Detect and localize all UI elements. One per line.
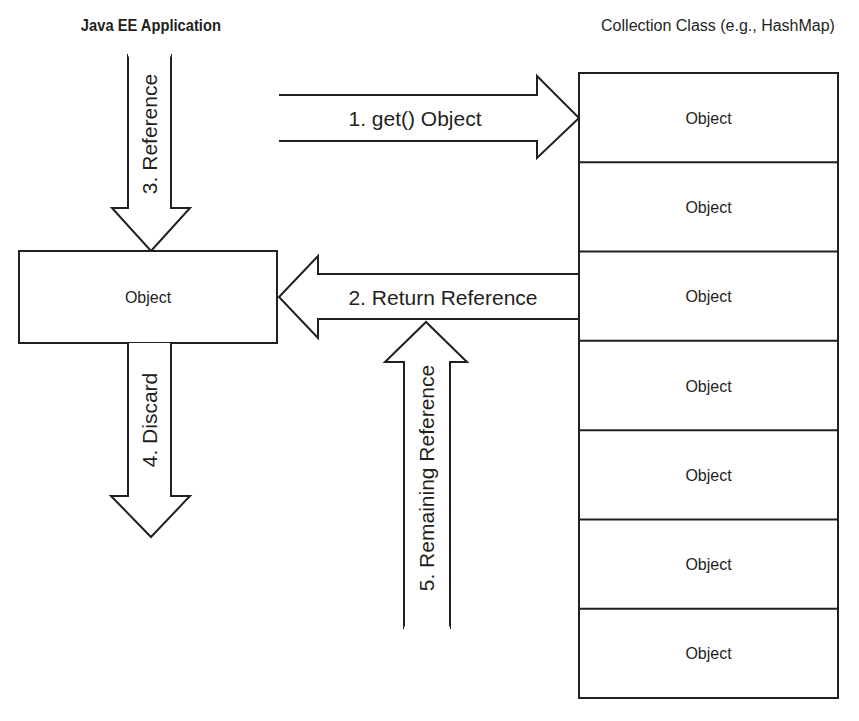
collection-cell-label: Object	[685, 288, 732, 305]
collection-cell: Object	[685, 110, 732, 127]
collection-class-title: Collection Class (e.g., HashMap)	[601, 17, 835, 34]
collection-cell-label: Object	[685, 467, 732, 484]
return-reference-arrow-label: 2. Return Reference	[348, 286, 537, 309]
reference-arrow: 3. Reference	[112, 55, 190, 251]
remaining-reference-arrow-label: 5. Remaining Reference	[415, 365, 438, 591]
diagram-canvas: Java EE Application Collection Class (e.…	[0, 0, 859, 721]
collection-class-box: ObjectObjectObjectObjectObjectObjectObje…	[579, 73, 838, 698]
remaining-reference-arrow: 5. Remaining Reference	[385, 322, 467, 628]
java-ee-application-title: Java EE Application	[81, 16, 221, 34]
collection-cell-label: Object	[685, 110, 732, 127]
collection-cell-label: Object	[685, 645, 732, 662]
collection-cell-label: Object	[685, 199, 732, 216]
discard-arrow: 4. Discard	[111, 344, 190, 537]
discard-arrow-label: 4. Discard	[138, 373, 161, 468]
reference-arrow-label: 3. Reference	[138, 74, 161, 194]
client-object-label: Object	[125, 289, 172, 306]
get-object-arrow-label: 1. get() Object	[348, 107, 481, 130]
collection-cell-label: Object	[685, 378, 732, 395]
client-object-box: Object	[19, 251, 277, 343]
collection-cell-label: Object	[685, 556, 732, 573]
get-object-arrow: 1. get() Object	[280, 76, 579, 158]
